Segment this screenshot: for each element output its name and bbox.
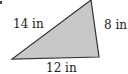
hypotenuse-label: 14 in bbox=[13, 18, 44, 30]
base-label: 12 in bbox=[46, 62, 77, 74]
right-side-label: 8 in bbox=[104, 19, 127, 31]
triangle-diagram: 14 in 8 in 12 in bbox=[0, 0, 128, 74]
